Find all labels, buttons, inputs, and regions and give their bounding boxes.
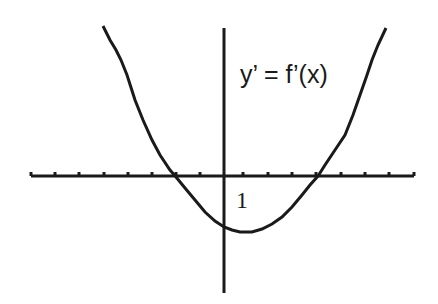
tick-label-one: 1 — [236, 187, 248, 213]
function-label: y’ = f’(x) — [240, 60, 328, 88]
function-graph: y’ = f’(x) 1 — [0, 0, 438, 304]
